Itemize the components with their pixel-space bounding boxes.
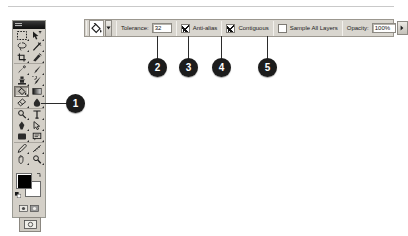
sample-all-layers-checkbox[interactable] [278,24,287,33]
tool-preset-picker[interactable] [89,20,104,37]
options-separator [273,21,274,36]
top-divider-rule [8,6,394,7]
paint-bucket-tool[interactable] [14,86,29,97]
move-tool[interactable] [29,30,44,41]
tool-flyout-corner-icon [26,94,28,96]
toolbox-palette[interactable] [12,20,46,218]
mask-mode-buttons[interactable] [18,203,40,214]
callout-5: 5 [258,58,277,77]
tool-row [14,109,44,120]
tool-row [14,143,44,154]
default-colors-icon[interactable] [15,192,21,198]
sample-all-layers-group[interactable]: Sample All Layers [278,24,338,33]
pen-tool[interactable] [14,120,29,131]
marquee-tool[interactable] [14,30,29,41]
tool-row [14,120,44,131]
callout-4: 4 [212,58,231,77]
paint-bucket-icon [90,23,103,34]
tool-row [14,52,44,63]
tool-row [14,41,44,52]
eraser-tool[interactable] [14,97,29,108]
crop-tool[interactable] [14,52,29,63]
gradient-tool[interactable] [29,86,44,97]
zoom-tool[interactable] [29,154,44,165]
opacity-group: Opacity: 100% [347,21,408,35]
tool-row [14,154,44,165]
tool-group-view [14,143,44,165]
tool-row [14,86,44,97]
contiguous-label: Contiguous [238,24,268,32]
tool-group-type-path [14,109,44,143]
shape-tool[interactable] [14,131,29,142]
tolerance-group: Tolerance: 32 [121,23,172,33]
anti-alias-checkbox[interactable] [181,24,190,33]
tool-options-bar[interactable]: Tolerance: 32 Anti-alias Contiguous Samp… [84,19,394,37]
measure-tool[interactable] [29,143,44,154]
contiguous-group[interactable]: Contiguous [226,24,268,33]
options-bar-grip-icon[interactable] [86,21,87,35]
clone-stamp-tool[interactable] [14,75,29,86]
options-separator [342,21,343,36]
toolbox-titlebar[interactable] [13,21,45,29]
quick-mask-mode-icon[interactable] [29,203,40,214]
lasso-tool[interactable] [14,41,29,52]
chevron-right-icon [400,25,404,31]
history-brush-tool[interactable] [29,75,44,86]
slice-tool[interactable] [29,52,44,63]
anti-alias-label: Anti-alias [193,24,218,32]
color-swatch-area[interactable] [16,173,42,197]
tool-row [14,131,44,142]
sample-all-layers-label: Sample All Layers [290,24,338,32]
tool-row [14,75,44,86]
opacity-slider-button[interactable] [397,21,408,35]
tool-flyout-corner-icon [42,106,44,108]
tolerance-field[interactable]: 32 [152,23,172,33]
callout-leader-1 [41,103,69,104]
notes-tool[interactable] [29,131,44,142]
foreground-color-swatch[interactable] [16,173,32,189]
callout-1: 1 [66,94,85,113]
dodge-tool[interactable] [14,109,29,120]
tool-flyout-corner-icon [42,163,44,165]
options-separator [176,21,177,36]
toolbox-tool-grid [14,30,44,165]
options-separator [221,21,222,36]
screen-mode-icon[interactable] [19,217,41,232]
brush-tool[interactable] [29,64,44,75]
tool-row [14,97,44,108]
tolerance-label: Tolerance: [121,24,149,32]
tool-flyout-corner-icon [42,61,44,63]
tool-row [14,64,44,75]
toolbox-grip-icon [15,23,22,27]
tool-flyout-corner-icon [42,140,44,142]
eyedropper-tool[interactable] [14,143,29,154]
contiguous-checkbox[interactable] [226,24,235,33]
swap-colors-icon[interactable] [36,172,42,178]
hand-tool[interactable] [14,154,29,165]
magic-wand-tool[interactable] [29,41,44,52]
standard-mode-icon[interactable] [18,203,29,214]
tool-group-selection [14,30,44,64]
options-separator [116,21,117,36]
tool-group-retouch-paint [14,64,44,109]
anti-alias-group[interactable]: Anti-alias [181,24,218,33]
callout-3: 3 [179,58,198,77]
tool-preset-dropdown-button[interactable] [105,20,112,37]
opacity-field[interactable]: 100% [372,23,396,33]
type-tool[interactable] [29,109,44,120]
tool-row [14,30,44,41]
opacity-label: Opacity: [347,24,369,32]
callout-2: 2 [148,58,167,77]
chevron-down-icon [106,26,111,30]
healing-brush-tool[interactable] [14,64,29,75]
path-selection-tool[interactable] [29,120,44,131]
